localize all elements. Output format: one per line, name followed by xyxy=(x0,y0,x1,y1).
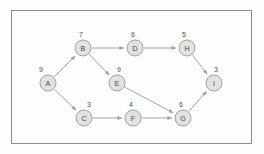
edges-layer xyxy=(54,48,207,118)
graph-node-d[interactable]: D6 xyxy=(127,31,143,57)
graph-node-g[interactable]: G6 xyxy=(175,101,191,127)
nodes-layer: A9B7C3D6E9F4G6H5I3 xyxy=(39,31,222,127)
graph-node-i[interactable]: I3 xyxy=(206,66,222,92)
graph-node-h[interactable]: H5 xyxy=(179,31,195,57)
graph-node-e[interactable]: E9 xyxy=(109,66,125,92)
node-label-c: C xyxy=(81,114,86,123)
graph-node-c[interactable]: C3 xyxy=(76,101,92,127)
node-label-g: G xyxy=(180,114,186,123)
graph-edge-a-to-b xyxy=(54,56,75,77)
graph-edge-h-to-i xyxy=(192,55,207,74)
node-weight-c: 3 xyxy=(87,101,91,108)
graph-node-a[interactable]: A9 xyxy=(39,66,56,92)
node-weight-e: 9 xyxy=(117,66,121,73)
node-label-h: H xyxy=(184,44,189,53)
node-weight-i: 3 xyxy=(214,66,218,73)
node-label-a: A xyxy=(46,79,51,88)
node-weight-g: 6 xyxy=(179,101,183,108)
node-label-d: D xyxy=(132,44,137,53)
node-weight-d: 6 xyxy=(131,31,135,38)
node-weight-f: 4 xyxy=(129,101,133,108)
node-label-b: B xyxy=(81,44,86,53)
node-label-i: I xyxy=(213,79,215,88)
node-weight-b: 7 xyxy=(79,31,83,38)
node-weight-h: 5 xyxy=(182,31,186,38)
figure-root: A9B7C3D6E9F4G6H5I3 xyxy=(0,0,264,154)
graph-node-f[interactable]: F4 xyxy=(125,101,141,127)
node-label-e: E xyxy=(115,79,120,88)
graph-diagram: A9B7C3D6E9F4G6H5I3 xyxy=(0,0,264,154)
graph-edge-g-to-i xyxy=(189,91,207,111)
graph-edge-b-to-e xyxy=(89,54,109,75)
graph-edge-a-to-c xyxy=(54,89,76,110)
node-label-f: F xyxy=(131,114,136,123)
node-weight-a: 9 xyxy=(39,66,43,73)
graph-node-b[interactable]: B7 xyxy=(75,31,91,57)
